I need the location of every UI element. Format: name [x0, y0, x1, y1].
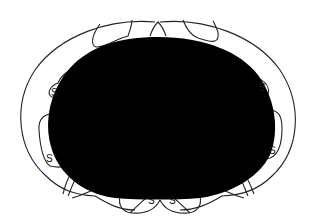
anatomical-diagram: S S S S S S — [0, 0, 317, 221]
label-s-mid-left: S — [46, 153, 53, 164]
label-s-upper-left: S — [51, 87, 58, 98]
central-mass — [48, 37, 275, 200]
top-right-lobe — [183, 20, 218, 41]
label-s-upper-right: S — [259, 82, 266, 93]
top-center-notch — [150, 22, 166, 36]
label-s-mid-right: S — [269, 145, 276, 156]
label-s-bottom-right: S — [169, 195, 176, 206]
label-s-bottom-left: S — [148, 195, 155, 206]
